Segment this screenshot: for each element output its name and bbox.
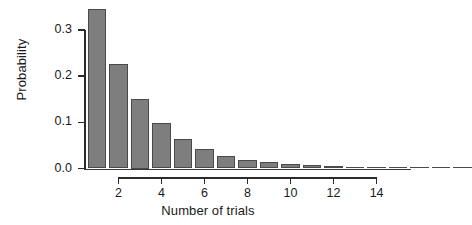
x-axis-tick-label: 10 — [271, 186, 311, 200]
x-axis-tick-label: 2 — [98, 186, 138, 200]
x-axis-title: Number of trials — [0, 203, 416, 218]
x-axis-tick — [161, 177, 163, 184]
bar — [217, 156, 236, 168]
bar — [432, 167, 451, 168]
x-axis-tick — [204, 177, 206, 184]
bar — [238, 160, 257, 168]
x-axis-tick-label: 6 — [184, 186, 224, 200]
bar — [195, 149, 214, 168]
x-axis-tick-label: 8 — [228, 186, 268, 200]
x-axis-baseline — [84, 169, 411, 171]
x-axis-tick-label: 14 — [357, 186, 397, 200]
x-axis-tick — [118, 177, 120, 184]
x-axis-tick — [247, 177, 249, 184]
x-axis-tick — [376, 177, 378, 184]
bar — [109, 64, 128, 168]
x-axis-tick-label: 12 — [314, 186, 354, 200]
x-axis-tick-label: 4 — [141, 186, 181, 200]
x-axis-tick — [333, 177, 335, 184]
bar — [410, 167, 429, 168]
bar — [152, 123, 171, 168]
bar — [174, 139, 193, 169]
bar — [453, 167, 472, 168]
bar — [88, 9, 107, 168]
x-axis-tick — [290, 177, 292, 184]
bar — [131, 99, 150, 168]
